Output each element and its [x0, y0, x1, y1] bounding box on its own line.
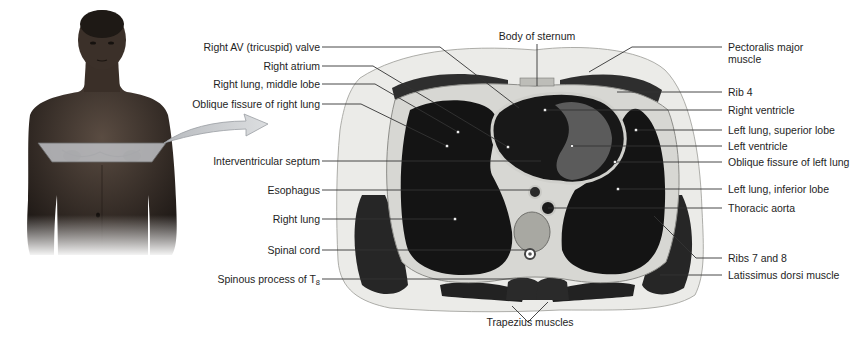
spinous-subscript: 8 [316, 278, 320, 287]
body-photo [20, 10, 190, 257]
label-right-atrium: Right atrium [263, 60, 320, 72]
cross-section [337, 47, 704, 311]
label-right-ventricle: Right ventricle [728, 104, 795, 116]
pectoralis-line1: Pectoralis major [728, 41, 803, 53]
label-oblique-fissure-right: Oblique fissure of right lung [192, 98, 320, 110]
label-trapezius-muscles: Trapezius muscles [486, 316, 573, 328]
label-right-lung: Right lung [273, 213, 320, 225]
label-esophagus: Esophagus [267, 184, 320, 196]
label-spinous-process: Spinous process of T8 [217, 273, 320, 285]
label-thoracic-aorta: Thoracic aorta [728, 202, 795, 214]
label-right-lung-middle-lobe: Right lung, middle lobe [213, 78, 320, 90]
spinous-text: Spinous process of T [217, 273, 315, 285]
transverse-plane-marker [38, 143, 166, 162]
label-ribs-7-8: Ribs 7 and 8 [728, 252, 787, 264]
label-body-of-sternum: Body of sternum [499, 30, 575, 42]
label-interventricular-septum: Interventricular septum [213, 155, 320, 167]
thorax-cross-section-figure: Right AV (tricuspid) valve Right atrium … [0, 0, 865, 341]
label-rib-4: Rib 4 [728, 86, 753, 98]
label-left-lung-inferior: Left lung, inferior lobe [728, 183, 829, 195]
label-spinal-cord: Spinal cord [267, 244, 320, 256]
label-pectoralis-major: Pectoralis major muscle [728, 41, 803, 65]
section-arrow-icon [164, 114, 268, 143]
label-tricuspid-valve: Right AV (tricuspid) valve [203, 41, 320, 53]
label-left-ventricle: Left ventricle [728, 140, 788, 152]
pectoralis-line2: muscle [728, 53, 803, 65]
label-oblique-fissure-left: Oblique fissure of left lung [728, 156, 849, 168]
label-latissimus-dorsi: Latissimus dorsi muscle [728, 269, 839, 281]
label-left-lung-superior: Left lung, superior lobe [728, 124, 835, 136]
